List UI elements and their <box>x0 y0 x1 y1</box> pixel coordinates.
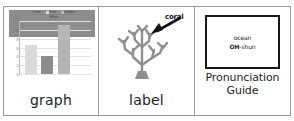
legend-label-turtle: Turtle <box>33 10 41 15</box>
bar-chart: Turtle Fish Dolphin Whale <box>9 10 95 37</box>
pronunciation-text-block: ocean OH-shun <box>207 33 278 51</box>
bar-3[interactable] <box>58 25 70 74</box>
coral-annotation-text: coral <box>165 13 184 21</box>
ytick-label-2: 2 <box>17 64 19 68</box>
worksheet-strip: Turtle Fish Dolphin Whale <box>0 0 294 121</box>
panel-pronunciation-caption: Pronunciation Guide <box>195 71 290 97</box>
bar-2[interactable] <box>41 56 53 74</box>
panel-label-caption: label <box>99 92 194 108</box>
panel-graph-caption: graph <box>4 92 98 108</box>
legend-item-turtle: Turtle <box>29 10 41 15</box>
legend-item-dolphin: Dolphin <box>61 10 76 15</box>
legend-label-whale: Whale <box>49 15 58 20</box>
pronunciation-caption-line-2: Guide <box>195 84 290 97</box>
chart-legend: Turtle Fish Dolphin Whale <box>9 10 95 21</box>
legend-row-bottom: Whale <box>9 15 95 20</box>
legend-swatch-dolphin <box>61 11 64 14</box>
panel-graph[interactable]: Turtle Fish Dolphin Whale <box>3 6 99 116</box>
legend-swatch-whale <box>45 16 48 19</box>
panel-pronunciation-guide[interactable]: ocean OH-shun Pronunciation Guide <box>195 6 291 116</box>
pronunciation-box: ocean OH-shun <box>205 15 280 69</box>
ytick-label-6: 6 <box>17 47 19 51</box>
chart-plot-area: 12 10 8 6 4 2 <box>19 21 91 75</box>
ytick-label-0: 0 <box>17 73 19 77</box>
ytick-label-12: 12 <box>15 20 19 24</box>
ytick-label-4: 4 <box>17 55 19 59</box>
legend-item-whale: Whale <box>45 15 58 20</box>
pronunciation-word: ocean <box>207 33 278 42</box>
legend-label-fish: Fish <box>50 10 56 15</box>
bar-1[interactable] <box>25 45 37 74</box>
pronunciation-respelling: OH-shun <box>207 42 278 51</box>
chart-bars <box>20 21 91 74</box>
panel-row: Turtle Fish Dolphin Whale <box>3 6 291 116</box>
ytick-label-10: 10 <box>15 29 19 33</box>
legend-label-dolphin: Dolphin <box>65 10 76 15</box>
legend-swatch-fish <box>46 11 49 14</box>
pronunciation-unstressed-syllable: -shun <box>239 43 255 50</box>
ytick-label-8: 8 <box>17 38 19 42</box>
gridline-0: 0 <box>20 74 91 75</box>
panel-label[interactable]: coral label <box>99 6 195 116</box>
pronunciation-caption-line-1: Pronunciation <box>195 71 290 84</box>
legend-swatch-turtle <box>29 11 32 14</box>
pronunciation-stressed-syllable: OH <box>229 43 239 50</box>
